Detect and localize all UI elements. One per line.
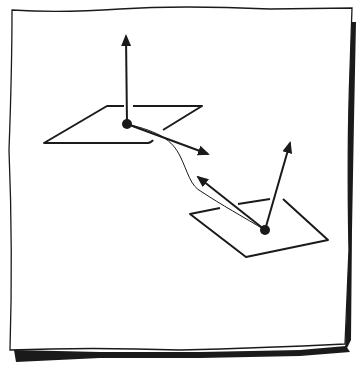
paper-sheet	[9, 7, 352, 350]
bottom-point	[260, 225, 270, 235]
top-point	[122, 119, 132, 129]
diagram-canvas	[0, 0, 358, 373]
top-normal-arrow	[126, 36, 127, 124]
